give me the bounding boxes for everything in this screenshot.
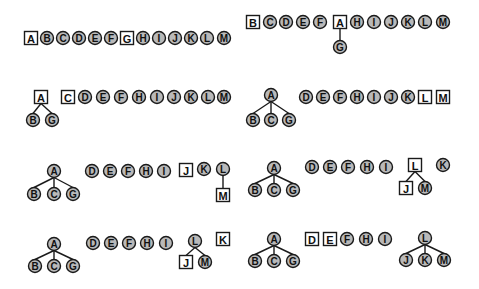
- node-l-root-square: L: [409, 159, 422, 172]
- node-label: J: [183, 257, 189, 269]
- node-j-circle: J: [168, 91, 181, 104]
- node-d-circle: D: [280, 16, 293, 29]
- node-label: M: [220, 92, 228, 103]
- edge-a-b: [255, 246, 274, 255]
- node-label: B: [249, 115, 256, 126]
- node-label: G: [289, 256, 297, 267]
- node-b-circle: B: [29, 260, 42, 273]
- node-label: H: [353, 17, 360, 28]
- node-h-circle: H: [140, 165, 153, 178]
- node-a-root-square: A: [334, 16, 347, 29]
- node-b-circle: B: [249, 184, 262, 197]
- node-m-circle: M: [419, 182, 432, 195]
- edge-a-g: [54, 251, 73, 260]
- node-k-circle: K: [419, 254, 432, 267]
- node-e-circle: E: [89, 32, 102, 45]
- node-i-circle: I: [368, 91, 381, 104]
- node-label: F: [108, 33, 114, 44]
- node-k-circle: K: [402, 16, 415, 29]
- node-j-circle: J: [400, 254, 413, 267]
- node-label: L: [412, 160, 419, 172]
- node-label: K: [404, 92, 412, 103]
- node-m-circle: M: [438, 254, 451, 267]
- node-m-root-square: M: [437, 91, 450, 104]
- node-label: L: [192, 236, 198, 247]
- node-c-circle: C: [57, 32, 70, 45]
- node-label: F: [118, 92, 124, 103]
- edge-a-b: [34, 178, 54, 188]
- node-label: A: [27, 33, 35, 45]
- edge-a-g: [41, 104, 52, 114]
- node-g-circle: G: [287, 255, 300, 268]
- node-d-circle: D: [87, 237, 100, 250]
- node-label: A: [270, 234, 277, 245]
- node-f-circle: F: [105, 32, 118, 45]
- node-label: J: [388, 17, 394, 28]
- node-label: J: [388, 92, 394, 103]
- node-j-circle: J: [385, 91, 398, 104]
- node-label: A: [270, 163, 277, 174]
- node-h-circle: H: [137, 32, 150, 45]
- node-b-root-square: B: [247, 16, 260, 29]
- node-j-circle: J: [385, 16, 398, 29]
- node-b-circle: B: [27, 114, 40, 127]
- edge-a-g: [274, 175, 293, 184]
- node-f-circle: F: [334, 91, 347, 104]
- node-label: H: [135, 92, 142, 103]
- edge-a-g: [54, 178, 73, 188]
- node-h-circle: H: [351, 16, 364, 29]
- node-a-circle: A: [265, 89, 278, 102]
- node-label: B: [251, 256, 258, 267]
- node-label: F: [344, 234, 350, 245]
- node-i-circle: I: [379, 233, 392, 246]
- node-label: H: [139, 33, 146, 44]
- node-label: E: [100, 92, 107, 103]
- node-label: G: [289, 185, 297, 196]
- node-label: L: [205, 92, 211, 103]
- node-label: D: [308, 234, 316, 246]
- node-label: K: [187, 33, 195, 44]
- node-label: F: [125, 166, 131, 177]
- node-e-circle: E: [324, 161, 337, 174]
- node-label: M: [440, 255, 448, 266]
- node-k-root-square: K: [217, 233, 230, 246]
- node-f-circle: F: [341, 233, 354, 246]
- node-a-circle: A: [48, 238, 61, 251]
- node-l-circle: L: [419, 16, 432, 29]
- edge-l-j: [406, 245, 425, 254]
- node-label: B: [29, 115, 36, 126]
- node-k-circle: K: [185, 91, 198, 104]
- node-e-circle: E: [105, 237, 118, 250]
- node-d-circle: D: [300, 91, 313, 104]
- node-m-root-square: M: [217, 189, 230, 202]
- node-b-circle: B: [247, 114, 260, 127]
- node-label: H: [142, 166, 149, 177]
- node-label: I: [158, 33, 161, 44]
- node-h-circle: H: [351, 91, 364, 104]
- node-c-circle: C: [48, 188, 61, 201]
- node-c-circle: C: [48, 260, 61, 273]
- node-label: A: [37, 92, 45, 104]
- node-e-root-square: E: [324, 233, 337, 246]
- node-j-circle: J: [169, 32, 182, 45]
- node-f-circle: F: [342, 161, 355, 174]
- panel-6: ABCGDEFHILKJM: [249, 159, 450, 197]
- union-find-diagram: ABCDEFGHIJKLMBCDEFAHIJKLMGABGCDEFHIJKLMA…: [0, 0, 479, 289]
- node-label: G: [69, 261, 77, 272]
- node-label: C: [266, 17, 273, 28]
- node-label: K: [200, 164, 208, 175]
- node-f-circle: F: [314, 16, 327, 29]
- node-label: A: [50, 239, 57, 250]
- node-label: E: [108, 238, 115, 249]
- node-i-circle: I: [153, 32, 166, 45]
- node-f-circle: F: [115, 91, 128, 104]
- node-h-circle: H: [361, 161, 374, 174]
- node-m-circle: M: [199, 256, 212, 269]
- panel-5: ABCGDEFHIJKLM: [28, 163, 230, 202]
- node-label: E: [326, 234, 333, 246]
- node-e-circle: E: [317, 91, 330, 104]
- node-g-circle: G: [46, 114, 59, 127]
- node-j-root-square: J: [180, 164, 193, 177]
- node-e-circle: E: [104, 165, 117, 178]
- node-label: D: [282, 17, 289, 28]
